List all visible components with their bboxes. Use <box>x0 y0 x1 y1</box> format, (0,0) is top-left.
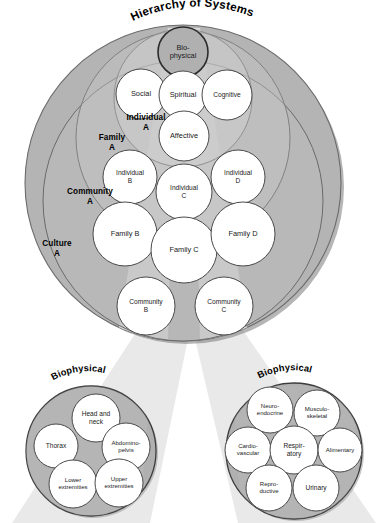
figure-title: Hierarchy of Systems <box>128 0 256 23</box>
node-label-individual-b: B <box>128 177 133 184</box>
node-upper-extremities: Upperextremities <box>95 459 143 507</box>
node-label-upper-extremities: Upper <box>111 476 127 482</box>
ring-label-text-individual-a: Individual <box>126 113 165 122</box>
node-affective: Affective <box>159 111 209 161</box>
detail-left-title: Biophysical <box>49 363 106 382</box>
node-neuro-endocrine: Neuro-endocrine <box>247 387 293 433</box>
node-label-reproductive: ductive <box>259 488 279 494</box>
node-label-lower-extremities: Lower <box>65 477 81 483</box>
node-label-abdomino-pelvis: Abdomino- <box>111 440 140 446</box>
node-label-community-b: Community <box>129 298 163 306</box>
node-label-reproductive: Repro- <box>260 481 278 487</box>
node-label-biophysical: physical <box>170 51 197 60</box>
node-label-cardio-vascular: Cardio- <box>238 443 258 449</box>
node-community-c: CommunityC <box>195 277 253 335</box>
node-cognitive: Cognitive <box>202 70 252 120</box>
node-biophysical: Bio-physical <box>158 27 208 77</box>
node-lower-extremities: Lowerextremities <box>49 460 97 508</box>
node-label-family-d: Family D <box>228 229 257 238</box>
node-label-musculo-skeletal: skeletal <box>307 413 327 419</box>
node-social: Social <box>116 69 166 119</box>
node-label-abdomino-pelvis: pelvis <box>118 447 133 453</box>
node-family-d: Family D <box>211 202 275 266</box>
node-label-community-c: C <box>222 306 227 313</box>
hierarchy-of-systems-figure: Bio-physicalSocialSpiritualCognitiveAffe… <box>0 0 382 523</box>
node-label-social: Social <box>131 89 151 98</box>
ring-label-text-community-a: Community <box>67 187 113 196</box>
node-label-affective: Affective <box>170 131 198 140</box>
node-label-individual-c: Individual <box>170 184 198 191</box>
node-label-individual-d: Individual <box>224 169 252 176</box>
ring-label-text-culture-a: Culture <box>42 239 72 248</box>
node-label-community-c: Community <box>207 298 241 306</box>
node-label-community-b: B <box>144 306 149 313</box>
node-community-b: CommunityB <box>117 277 175 335</box>
node-label-thorax: Thorax <box>46 442 67 449</box>
node-label-urinary: Urinary <box>305 484 327 492</box>
diagram-canvas: Bio-physicalSocialSpiritualCognitiveAffe… <box>0 0 382 523</box>
node-alimentary: Alimentary <box>318 428 362 472</box>
node-label-respiratory: atory <box>287 450 302 458</box>
ring-label-text-family-a: Family <box>99 133 126 142</box>
node-label-respiratory: Respir- <box>283 442 304 450</box>
node-label-family-b: Family B <box>111 229 140 238</box>
node-family-b: Family B <box>93 202 157 266</box>
node-label-head-and-neck: Head and <box>82 410 111 417</box>
node-label-lower-extremities: extremities <box>58 484 87 490</box>
ring-label-text-community-a: A <box>87 197 93 206</box>
node-urinary: Urinary <box>293 465 339 511</box>
ring-label-text-individual-a: A <box>143 123 149 132</box>
node-label-family-c: Family C <box>169 245 199 254</box>
node-label-upper-extremities: extremities <box>104 483 133 489</box>
node-label-spiritual: Spiritual <box>170 90 197 99</box>
node-label-neuro-endocrine: endocrine <box>257 410 284 416</box>
ring-label-text-culture-a: A <box>54 249 60 258</box>
node-label-head-and-neck: neck <box>89 418 104 425</box>
node-reproductive: Repro-ductive <box>246 465 292 511</box>
node-label-cardio-vascular: vascular <box>237 450 259 456</box>
node-label-individual-c: C <box>182 192 187 199</box>
node-individual-c: IndividualC <box>156 164 212 220</box>
ring-label-text-family-a: A <box>109 143 115 152</box>
node-label-cognitive: Cognitive <box>213 91 241 99</box>
node-label-musculo-skeletal: Musculo- <box>305 406 329 412</box>
node-individual-d: IndividualD <box>211 150 265 204</box>
node-family-c: Family C <box>151 217 217 283</box>
node-label-individual-d: D <box>236 177 241 184</box>
node-label-individual-b: Individual <box>116 169 144 176</box>
node-label-alimentary: Alimentary <box>326 447 354 453</box>
node-label-neuro-endocrine: Neuro- <box>261 403 279 409</box>
